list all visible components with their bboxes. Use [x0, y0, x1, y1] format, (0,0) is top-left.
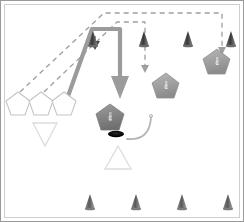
pentagon-unit-staged-group[interactable] [6, 92, 76, 115]
ellipse-marker[interactable] [108, 131, 124, 137]
game-scene: C C C [0, 0, 244, 222]
tactical-board[interactable] [0, 0, 244, 222]
